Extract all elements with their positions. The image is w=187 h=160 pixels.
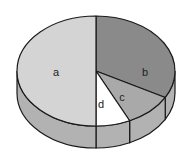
slice-label-a: a — [53, 66, 60, 78]
pie-chart: a b c d — [0, 0, 187, 160]
slice-label-d: d — [98, 98, 104, 110]
pie-top — [17, 16, 175, 126]
slice-label-c: c — [119, 91, 125, 103]
pie-chart-svg: a b c d — [0, 0, 187, 160]
slice-label-b: b — [142, 66, 148, 78]
